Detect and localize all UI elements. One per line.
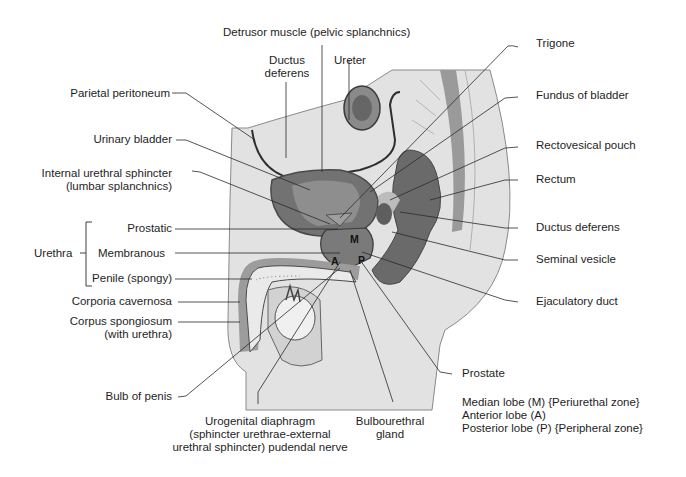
anatomy-figure: A M P Detrusor muscle (pelvic splanchnic…	[0, 0, 686, 477]
label-parietal-peritoneum: Parietal peritoneum	[0, 87, 170, 100]
prostate-lobe-legend: Median lobe (M) {Periurethal zone} Anter…	[462, 396, 643, 435]
label-urethra: Urethra	[34, 247, 72, 260]
label-corpus-spongiosum: Corpus spongiosum (with urethra)	[0, 315, 172, 341]
label-bulb-of-penis: Bulb of penis	[0, 390, 172, 403]
label-urinary-bladder: Urinary bladder	[0, 133, 172, 146]
label-ejaculatory-duct: Ejaculatory duct	[536, 295, 618, 308]
lobe-marker-posterior: P	[358, 254, 365, 266]
label-urethra-membranous: Membranous	[98, 247, 165, 260]
label-fundus-of-bladder: Fundus of bladder	[536, 89, 629, 102]
label-prostate: Prostate	[462, 367, 505, 380]
label-seminal-vesicle: Seminal vesicle	[536, 253, 616, 266]
label-ureter: Ureter	[334, 54, 366, 67]
lobe-marker-anterior: A	[331, 255, 339, 267]
label-corpora-cavernosa: Corporia cavernosa	[0, 295, 172, 308]
label-rectum: Rectum	[536, 173, 576, 186]
label-urethra-prostatic: Prostatic	[0, 222, 172, 235]
label-urogenital-diaphragm: Urogenital diaphragm (sphincter urethrae…	[160, 415, 360, 454]
label-ductus-deferens-top: Ductus deferens	[262, 54, 312, 80]
label-trigone: Trigone	[536, 37, 575, 50]
label-internal-urethral-sphincter: Internal urethral sphincter (lumbar spla…	[0, 167, 172, 193]
label-detrusor-muscle: Detrusor muscle (pelvic splanchnics)	[223, 26, 410, 39]
lobe-marker-median: M	[350, 233, 359, 245]
label-rectovesical-pouch: Rectovesical pouch	[536, 139, 636, 152]
seminal-vesicle	[376, 203, 392, 225]
label-ductus-deferens-right: Ductus deferens	[536, 221, 620, 234]
label-urethra-penile: Penile (spongy)	[0, 272, 172, 285]
label-bulbourethral-gland: Bulbourethral gland	[350, 415, 430, 441]
